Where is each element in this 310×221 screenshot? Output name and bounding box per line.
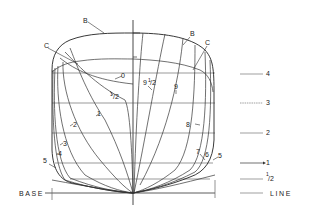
svg-text:/2: /2 <box>150 79 156 86</box>
svg-text:C: C <box>205 39 210 46</box>
label-station-2: 2 <box>70 121 77 128</box>
label-station-9: 9 <box>174 83 178 94</box>
label-station-8: 8 <box>186 121 200 128</box>
left-stations <box>53 48 133 193</box>
svg-text:3: 3 <box>266 99 270 106</box>
waterline-label-1: 1 <box>240 159 270 166</box>
svg-text:8: 8 <box>186 121 190 128</box>
right-stations <box>133 33 211 193</box>
hull-side-right <box>133 90 214 193</box>
svg-text:9: 9 <box>143 79 147 86</box>
svg-text:6: 6 <box>205 151 209 158</box>
svg-text:2: 2 <box>266 129 270 136</box>
svg-text:C: C <box>44 42 49 49</box>
svg-text:5: 5 <box>218 152 222 159</box>
baseline-label-base: BASE <box>19 190 44 197</box>
label-station-half-left: 1 /2 <box>110 91 119 100</box>
waterline-label-3: 3 <box>240 99 270 106</box>
svg-text:9: 9 <box>174 83 178 90</box>
svg-text:/2: /2 <box>268 175 274 182</box>
svg-text:3: 3 <box>63 140 67 147</box>
svg-text:1: 1 <box>97 110 101 117</box>
label-station-5-right: 5 <box>213 152 222 160</box>
svg-text:2: 2 <box>73 121 77 128</box>
label-station-4: 4 <box>57 150 62 157</box>
svg-text:4: 4 <box>58 150 62 157</box>
waterline-label-half: 1 /2 <box>240 171 274 182</box>
svg-text:4: 4 <box>266 70 270 77</box>
svg-text:1: 1 <box>266 159 270 166</box>
label-station-6: 6 <box>205 151 209 158</box>
label-station-1: 1 <box>96 110 101 117</box>
ship-body-plan-diagram: B C B C 0 1 /2 1 2 3 4 5 9 <box>0 0 310 221</box>
label-B-left: B <box>83 17 104 33</box>
svg-text:7: 7 <box>196 148 200 155</box>
svg-text:0: 0 <box>121 72 125 79</box>
svg-text:/2: /2 <box>113 93 119 100</box>
svg-text:B: B <box>83 17 88 24</box>
svg-text:5: 5 <box>43 157 47 164</box>
baseline-label-line: LINE <box>270 190 292 197</box>
label-station-3: 3 <box>60 140 67 147</box>
waterline-label-4: 4 <box>240 70 270 77</box>
label-station-7: 7 <box>196 148 205 160</box>
svg-text:B: B <box>190 30 195 37</box>
waterline-label-2: 2 <box>240 129 270 136</box>
